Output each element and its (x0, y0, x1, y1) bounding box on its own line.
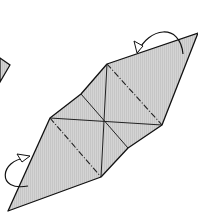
arrowhead-top-icon (134, 41, 143, 53)
paper-outline (8, 33, 198, 211)
arrowhead-bottom-icon (17, 154, 30, 162)
origami-diagram (0, 0, 198, 217)
previous-step-fragment (0, 58, 10, 82)
